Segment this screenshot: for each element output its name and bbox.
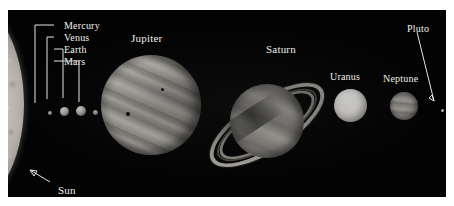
leader-line-mars [54,61,79,102]
label-sun: Sun [58,185,76,196]
label-saturn: Saturn [266,44,296,55]
planet-mercury [48,111,52,115]
leader-line-pluto [417,32,434,101]
label-venus: Venus [64,32,89,43]
sun-arrowhead [30,170,37,176]
jupiter-moon-shadow-a [126,112,130,116]
label-pluto: Pluto [407,23,429,34]
leader-line-earth [54,49,63,98]
leader-line-venus [47,37,54,99]
label-uranus: Uranus [330,71,360,82]
pluto-arrowhead [429,95,434,101]
sky-panel: Mercury Venus Earth Mars Jupiter Saturn … [8,10,446,197]
leader-line-sun [30,170,50,182]
jupiter-moon-shadow-b [161,88,164,91]
saturn-disk [230,84,304,158]
label-earth: Earth [64,44,87,55]
planet-pluto [441,109,444,112]
label-jupiter: Jupiter [131,33,162,44]
planet-earth [76,106,86,116]
solar-system-figure: Mercury Venus Earth Mars Jupiter Saturn … [0,0,454,206]
planet-neptune [390,92,418,120]
planet-venus [60,107,69,116]
label-neptune: Neptune [383,73,418,84]
sun-surface-texture [8,10,24,197]
label-mars: Mars [64,56,85,67]
sun-body [8,10,24,197]
planet-uranus [334,89,367,122]
label-mercury: Mercury [64,20,100,31]
leader-line-mercury [35,25,54,103]
planet-mars [93,110,98,115]
planet-saturn [204,32,332,197]
